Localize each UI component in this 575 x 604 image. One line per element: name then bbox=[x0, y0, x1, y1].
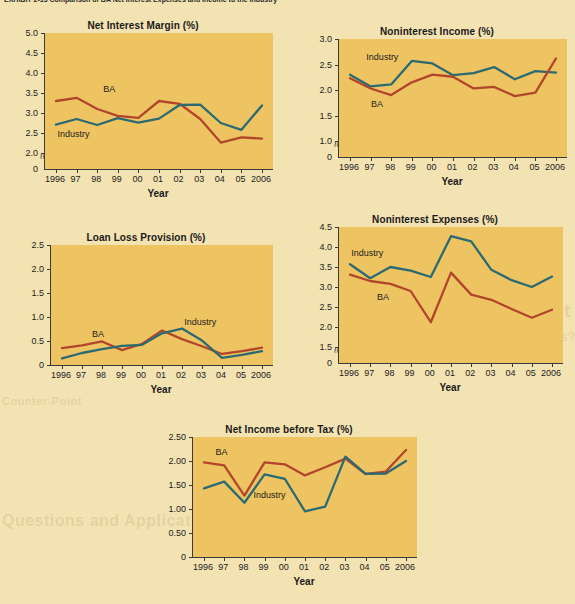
x-tick-label: 02 bbox=[174, 174, 184, 184]
x-tick-label: 97 bbox=[365, 162, 375, 172]
x-tick-label: 98 bbox=[384, 368, 394, 378]
x-tick-mark bbox=[162, 365, 163, 369]
x-tick-label: 00 bbox=[279, 562, 289, 572]
y-tick-label: 1.5 bbox=[319, 111, 332, 121]
x-tick-mark bbox=[535, 157, 536, 161]
x-tick-mark bbox=[138, 169, 139, 173]
x-tick-mark bbox=[411, 363, 412, 367]
chart-loan-loss-provision: Loan Loss Provision (%)00.51.01.52.02.5B… bbox=[18, 232, 280, 399]
x-tick-mark bbox=[202, 365, 203, 369]
x-tick-mark bbox=[285, 557, 286, 561]
x-axis-title: Year bbox=[50, 384, 272, 395]
plot-area: BAIndustry bbox=[50, 245, 273, 366]
x-axis-labels: 19969798990001020304052006 bbox=[50, 370, 272, 382]
x-tick-mark bbox=[118, 169, 119, 173]
x-tick-label: 02 bbox=[468, 162, 478, 172]
x-tick-mark bbox=[386, 557, 387, 561]
x-tick-label: 04 bbox=[216, 370, 226, 380]
x-tick-label: 03 bbox=[196, 370, 206, 380]
x-axis-title: Year bbox=[338, 382, 562, 393]
y-tick-label: 4.0 bbox=[319, 242, 332, 252]
y-tick-label: 3.5 bbox=[319, 262, 332, 272]
x-axis-labels: 19969798990001020304052006 bbox=[192, 562, 416, 574]
x-tick-mark bbox=[350, 157, 351, 161]
y-tick-label: 2.0 bbox=[319, 322, 332, 332]
x-tick-label: 97 bbox=[71, 174, 81, 184]
series-line-industry bbox=[350, 236, 552, 287]
x-tick-label: 04 bbox=[215, 174, 225, 184]
chart-noninterest-expenses: Noninterest Expenses (%)≈1.52.02.53.03.5… bbox=[306, 214, 570, 397]
x-tick-label: 97 bbox=[76, 370, 86, 380]
chart-title: Net Income before Tax (%) bbox=[160, 424, 418, 435]
chart-noninterest-income: Noninterest Income (%)≈1.01.52.02.53.00I… bbox=[306, 26, 574, 191]
x-axis-labels: 19969798990001020304052006 bbox=[338, 368, 562, 380]
chart-title: Noninterest Expenses (%) bbox=[306, 214, 564, 225]
series-label-industry: Industry bbox=[366, 52, 398, 62]
y-tick-label: 2.5 bbox=[25, 128, 38, 138]
y-tick-mark bbox=[47, 365, 51, 366]
x-tick-mark bbox=[515, 157, 516, 161]
x-tick-label: 98 bbox=[91, 174, 101, 184]
x-tick-label: 02 bbox=[176, 370, 186, 380]
x-tick-mark bbox=[494, 157, 495, 161]
series-label-ba: BA bbox=[215, 447, 227, 457]
x-tick-mark bbox=[182, 365, 183, 369]
x-tick-label: 00 bbox=[426, 162, 436, 172]
series-label-ba: BA bbox=[103, 84, 115, 94]
series-line-industry bbox=[204, 457, 406, 512]
x-tick-mark bbox=[391, 157, 392, 161]
x-tick-label: 02 bbox=[319, 562, 329, 572]
y-axis-zero-label: 0 bbox=[33, 164, 38, 174]
y-tick-label: 1.5 bbox=[31, 288, 44, 298]
y-tick-label: 4.5 bbox=[319, 222, 332, 232]
y-axis-labels: 1.52.02.53.03.54.04.50 bbox=[306, 227, 332, 363]
x-tick-mark bbox=[77, 169, 78, 173]
x-tick-mark bbox=[221, 169, 222, 173]
y-tick-label: 4.0 bbox=[25, 68, 38, 78]
x-tick-label: 2006 bbox=[545, 162, 565, 172]
series-label-ba: BA bbox=[371, 99, 383, 109]
y-tick-label: 2.0 bbox=[319, 85, 332, 95]
y-tick-label: 2.0 bbox=[25, 148, 38, 158]
series-label-industry: Industry bbox=[351, 248, 383, 258]
y-tick-label: 0 bbox=[181, 552, 186, 562]
x-tick-label: 99 bbox=[259, 562, 269, 572]
x-tick-mark bbox=[471, 363, 472, 367]
y-tick-mark bbox=[189, 557, 193, 558]
x-tick-mark bbox=[244, 557, 245, 561]
x-tick-mark bbox=[222, 365, 223, 369]
x-tick-label: 1996 bbox=[51, 370, 71, 380]
y-axis-zero-label: 0 bbox=[327, 152, 332, 162]
series-label-industry: Industry bbox=[184, 317, 216, 327]
x-tick-mark bbox=[224, 557, 225, 561]
x-tick-mark bbox=[491, 363, 492, 367]
x-tick-mark bbox=[432, 157, 433, 161]
x-axis-labels: 19969798990001020304052006 bbox=[44, 174, 272, 186]
series-lines bbox=[51, 245, 273, 365]
x-tick-label: 01 bbox=[153, 174, 163, 184]
series-label-industry: Industry bbox=[253, 490, 285, 500]
x-tick-label: 1996 bbox=[193, 562, 213, 572]
x-tick-mark bbox=[241, 169, 242, 173]
x-tick-label: 00 bbox=[136, 370, 146, 380]
y-tick-label: 3.5 bbox=[25, 88, 38, 98]
x-tick-label: 04 bbox=[506, 368, 516, 378]
x-tick-label: 01 bbox=[299, 562, 309, 572]
figure-caption: EXHIBIT 2-13 Comparison of BA Net Intere… bbox=[4, 0, 277, 4]
x-tick-label: 98 bbox=[238, 562, 248, 572]
x-tick-label: 05 bbox=[526, 368, 536, 378]
y-tick-label: 5.0 bbox=[25, 28, 38, 38]
y-tick-label: 3.0 bbox=[25, 108, 38, 118]
x-tick-mark bbox=[431, 363, 432, 367]
y-tick-label: 0 bbox=[39, 360, 44, 370]
series-line-ba bbox=[350, 58, 556, 96]
x-tick-label: 2006 bbox=[541, 368, 561, 378]
x-tick-label: 99 bbox=[116, 370, 126, 380]
y-axis-labels: 00.51.01.52.02.5 bbox=[18, 245, 44, 365]
x-tick-mark bbox=[262, 169, 263, 173]
x-tick-mark bbox=[512, 363, 513, 367]
y-tick-label: 2.0 bbox=[31, 264, 44, 274]
x-tick-mark bbox=[262, 365, 263, 369]
x-tick-label: 05 bbox=[529, 162, 539, 172]
x-tick-label: 04 bbox=[360, 562, 370, 572]
